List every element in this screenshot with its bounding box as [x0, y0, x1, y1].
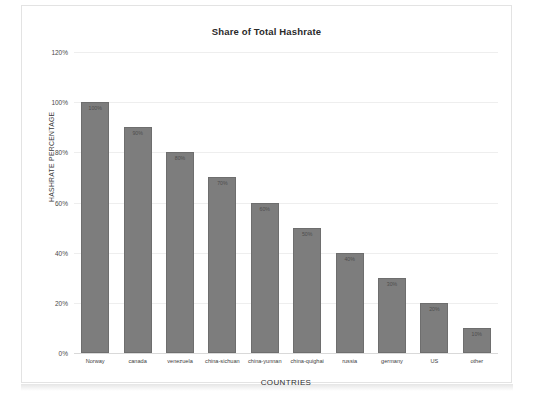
y-gridline — [74, 353, 498, 354]
x-axis-tick-label: other — [450, 358, 504, 364]
y-axis-tick-label: 120% — [51, 49, 68, 56]
bar-value-label: 70% — [209, 181, 235, 186]
bar-group: 90%canada — [116, 52, 158, 353]
bar[interactable]: 10% — [463, 328, 491, 353]
chart-container: Share of Total Hashrate HASHRATE PERCENT… — [21, 5, 512, 383]
bar[interactable]: 90% — [124, 127, 152, 353]
bar-value-label: 60% — [252, 207, 278, 212]
bar-value-label: 30% — [379, 282, 405, 287]
y-axis-tick-label: 100% — [51, 99, 68, 106]
bar-group: 10%other — [456, 52, 498, 353]
y-axis-tick-label: 20% — [55, 299, 68, 306]
bar-group: 60%china-yunnan — [244, 52, 286, 353]
bar-group: 30%germany — [371, 52, 413, 353]
bar-value-label: 100% — [82, 106, 108, 111]
x-axis-title: COUNTRIES — [74, 378, 498, 387]
chart-title: Share of Total Hashrate — [22, 26, 511, 37]
bar[interactable]: 60% — [251, 203, 279, 354]
y-axis-title: HASHRATE PERCENTAGE — [48, 112, 55, 202]
bar-group: 20%US — [413, 52, 455, 353]
bar-group: 80%venezuela — [159, 52, 201, 353]
bar-value-label: 10% — [464, 332, 490, 337]
y-axis-tick-label: 80% — [55, 149, 68, 156]
y-axis-tick-label: 60% — [55, 199, 68, 206]
bar[interactable]: 20% — [420, 303, 448, 353]
bar-value-label: 20% — [421, 307, 447, 312]
bar-value-label: 50% — [294, 232, 320, 237]
bar[interactable]: 70% — [208, 177, 236, 353]
bar[interactable]: 40% — [336, 253, 364, 353]
y-axis-tick-label: 40% — [55, 249, 68, 256]
bar-group: 40%russia — [328, 52, 370, 353]
bar-group: 50%china-quighai — [286, 52, 328, 353]
bar-group: 70%china-sichuan — [201, 52, 243, 353]
bar[interactable]: 50% — [293, 228, 321, 353]
bar[interactable]: 30% — [378, 278, 406, 353]
bar-group: 100%Norway — [74, 52, 116, 353]
bar[interactable]: 100% — [81, 102, 109, 353]
bar-value-label: 80% — [167, 156, 193, 161]
bar-value-label: 40% — [337, 257, 363, 262]
bar-value-label: 90% — [125, 131, 151, 136]
y-axis-tick-label: 0% — [59, 350, 68, 357]
bar[interactable]: 80% — [166, 152, 194, 353]
plot-area: 0%20%40%60%80%100%120%100%Norway90%canad… — [74, 52, 498, 353]
